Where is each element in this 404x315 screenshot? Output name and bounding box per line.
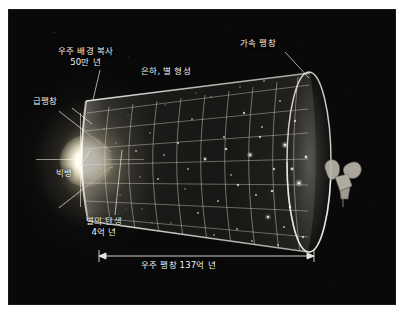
label-inflation: 급팽창 [33,96,58,107]
label-expansion-span-text: 우주 팽창 137억 년 [141,260,216,270]
label-accelerating-expansion: 가속 팽창 [240,38,276,49]
glow-ray-icon [80,113,81,207]
label-galaxy-star-formation: 은하, 별 형성 [141,66,191,77]
label-cmb-line2: 50만 년 [58,57,113,68]
label-inflation-text: 급팽창 [33,96,58,106]
label-big-bang-text: 빅뱅 [56,168,72,178]
galaxy-starfield [103,80,307,246]
cone-top-edge [86,73,310,101]
label-accelerating-expansion-text: 가속 팽창 [240,38,276,48]
figure-root: 우주 배경 복사 50만 년 은하, 별 형성 가속 팽창 급팽창 빅뱅 별의 … [0,0,404,315]
cone-end-face [287,72,331,252]
label-star-birth: 별의 탄생 4억 년 [86,216,122,238]
label-galaxy-star-formation-text: 은하, 별 형성 [141,66,191,76]
cone-grid-lines [82,85,309,237]
label-cmb: 우주 배경 복사 50만 년 [58,46,113,68]
label-cmb-line1: 우주 배경 복사 [58,46,113,56]
cone-right-rim [287,72,331,252]
satellite-icon [320,157,366,211]
big-bang-core-icon [60,135,112,187]
label-star-birth-line2: 4억 년 [86,227,122,238]
label-star-birth-line1: 별의 탄생 [86,216,122,226]
cone-left-rim [82,101,88,221]
label-big-bang: 빅뱅 [56,168,72,179]
glow-ray-icon [36,159,144,160]
glow-ray-icon [59,111,112,152]
label-expansion-span: 우주 팽창 137억 년 [141,260,216,271]
cone-grid-rings [105,77,300,253]
